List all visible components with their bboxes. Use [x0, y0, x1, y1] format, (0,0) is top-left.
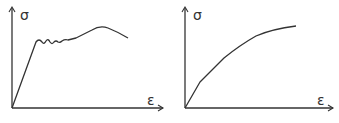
diagram-canvas: σ ε σ ε	[0, 0, 339, 123]
left-stress-strain-chart: σ ε	[9, 7, 163, 111]
stress-strain-curve	[185, 26, 296, 108]
y-axis-label: σ	[193, 7, 202, 23]
x-axis-label: ε	[147, 92, 155, 108]
x-axis-label: ε	[317, 92, 325, 108]
right-stress-strain-chart: σ ε	[182, 7, 333, 111]
stress-strain-curve	[12, 27, 128, 108]
y-axis-label: σ	[20, 7, 29, 23]
